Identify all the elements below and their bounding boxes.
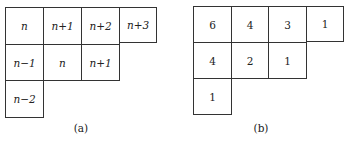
cell-b-r1-c1: 2 bbox=[231, 42, 269, 79]
cell-label: n+2 bbox=[89, 20, 111, 32]
cell-label: n+3 bbox=[127, 19, 149, 31]
young-diagram-b: 6 4 3 1 4 2 1 1 bbox=[193, 6, 344, 115]
cell-a-r0-c1: n+1 bbox=[43, 7, 82, 45]
cell-label: n bbox=[21, 20, 28, 32]
cell-a-r2-c0: n−2 bbox=[5, 80, 44, 118]
cell-b-r0-c0: 6 bbox=[193, 6, 232, 43]
cell-label: 1 bbox=[284, 55, 291, 67]
cell-label: 2 bbox=[247, 55, 254, 67]
cell-a-r1-c2: n+1 bbox=[81, 44, 120, 81]
cell-label: 1 bbox=[322, 18, 329, 30]
cell-label: n+1 bbox=[89, 57, 111, 69]
cell-a-r0-c0: n bbox=[5, 7, 44, 45]
cell-label: 4 bbox=[209, 55, 216, 67]
cell-a-r0-c3: n+3 bbox=[119, 7, 157, 43]
cell-b-r0-c3: 1 bbox=[306, 6, 344, 42]
young-diagram-a: n n+1 n+2 n+3 n−1 n n+1 n−2 bbox=[5, 7, 158, 118]
cell-b-r0-c2: 3 bbox=[268, 6, 307, 43]
cell-b-r1-c0: 4 bbox=[193, 42, 232, 79]
cell-a-r0-c2: n+2 bbox=[81, 7, 120, 45]
caption-a: (a) bbox=[61, 122, 101, 134]
cell-label: 6 bbox=[209, 19, 216, 31]
cell-label: n+1 bbox=[51, 20, 73, 32]
cell-label: 1 bbox=[209, 91, 216, 103]
cell-a-r1-c0: n−1 bbox=[5, 44, 44, 81]
caption-b: (b) bbox=[241, 122, 281, 134]
cell-b-r1-c2: 1 bbox=[268, 42, 307, 79]
cell-a-r1-c1: n bbox=[43, 44, 82, 81]
cell-label: n bbox=[59, 57, 66, 69]
cell-b-r0-c1: 4 bbox=[231, 6, 269, 43]
cell-label: n−1 bbox=[13, 57, 35, 69]
cell-label: n−2 bbox=[13, 93, 35, 105]
cell-b-r2-c0: 1 bbox=[193, 78, 232, 115]
cell-label: 4 bbox=[247, 19, 254, 31]
cell-label: 3 bbox=[284, 19, 291, 31]
